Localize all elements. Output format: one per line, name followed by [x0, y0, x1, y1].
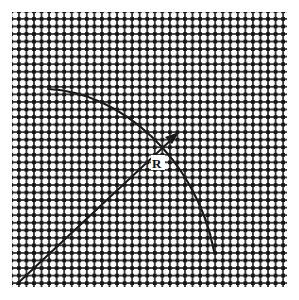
- radius-label-group: R: [151, 155, 165, 171]
- diagram-canvas: R: [0, 0, 299, 300]
- radius-label: R: [152, 156, 162, 171]
- figure-root: R: [0, 0, 299, 300]
- mesh-grid: [12, 12, 287, 287]
- mesh-grid-area: [12, 12, 287, 287]
